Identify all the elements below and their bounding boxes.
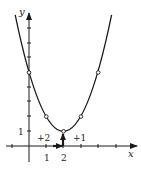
x-tick-label-2: 2 <box>61 153 67 163</box>
point-0-5 <box>27 71 31 75</box>
x-axis <box>6 144 137 148</box>
point-1-2 <box>45 115 49 119</box>
y-axis-label: y <box>18 6 25 17</box>
marked-points <box>27 71 100 133</box>
parabola-diagram: y x 1 1 2 +2 +1 <box>0 0 141 173</box>
horizontal-shift-label: +2 <box>37 133 50 143</box>
x-tick-label-1: 1 <box>44 153 50 163</box>
x-axis-label: x <box>128 148 134 159</box>
point-4-5 <box>96 71 100 75</box>
vertical-shift-label: +1 <box>73 133 86 143</box>
point-3-2 <box>79 115 83 119</box>
y-axis <box>27 13 31 162</box>
y-tick-label-1: 1 <box>18 127 24 137</box>
translation-arrows <box>53 134 63 146</box>
point-vertex-2-1 <box>62 130 66 134</box>
